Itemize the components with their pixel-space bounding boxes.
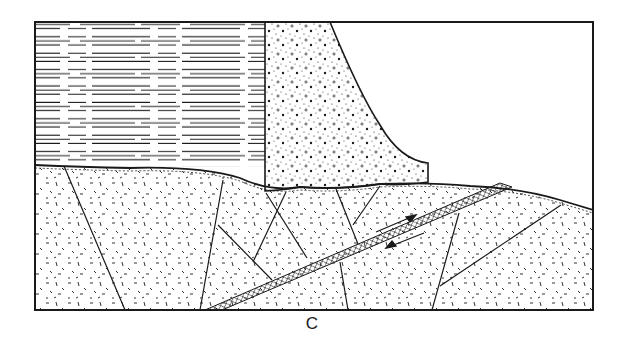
concrete-dam <box>265 22 428 191</box>
dam-cross-section-diagram <box>0 0 624 350</box>
figure-label: C <box>0 314 624 334</box>
